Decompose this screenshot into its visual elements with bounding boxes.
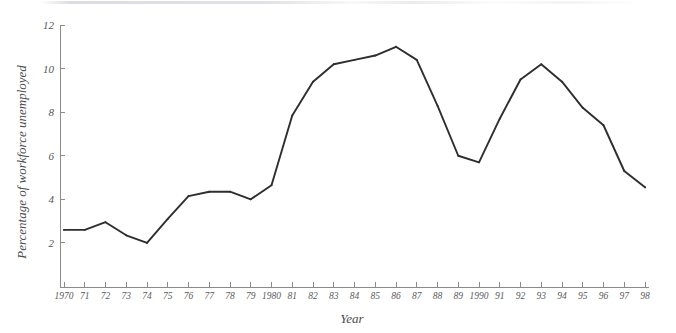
x-axis-tick-label: 89 xyxy=(454,291,464,301)
x-axis-tick-label: 72 xyxy=(101,291,111,301)
data-point xyxy=(540,63,542,65)
data-point xyxy=(354,59,356,61)
x-axis-tick-label: 95 xyxy=(578,291,588,301)
data-point xyxy=(478,161,480,163)
data-point xyxy=(623,170,625,172)
y-axis-tick-label: 6 xyxy=(49,150,55,162)
x-axis-tick-label: 1980 xyxy=(262,291,281,301)
data-point xyxy=(603,124,605,126)
y-axis-tick-label: 12 xyxy=(43,19,55,31)
data-point xyxy=(63,229,65,231)
x-axis-tick-label: 84 xyxy=(350,291,360,301)
x-axis-tick-label: 97 xyxy=(620,291,631,301)
y-axis-tick-label: 10 xyxy=(43,63,55,75)
x-axis-tick-label: 88 xyxy=(433,291,443,301)
data-point xyxy=(374,55,376,57)
x-axis-tick-label: 93 xyxy=(537,291,547,301)
y-axis-tick-label: 8 xyxy=(49,106,55,118)
data-point xyxy=(561,81,563,83)
data-point xyxy=(167,218,169,220)
data-point xyxy=(457,155,459,157)
data-point xyxy=(125,234,127,236)
x-axis-tick-label: 73 xyxy=(122,291,132,301)
data-point xyxy=(395,46,397,48)
unemployment-line-chart: 24681012 1970717273747576777879198081828… xyxy=(0,0,676,333)
x-axis-tick-label: 96 xyxy=(599,291,609,301)
x-axis-tick-label: 71 xyxy=(80,291,90,301)
data-point xyxy=(229,191,231,193)
x-axis-tick-label: 1970 xyxy=(55,291,74,301)
data-point xyxy=(312,81,314,83)
x-axis-tick-label: 87 xyxy=(412,291,423,301)
y-axis-tick-label: 2 xyxy=(49,237,55,249)
data-point xyxy=(416,59,418,61)
x-axis-title: Year xyxy=(340,311,364,326)
x-axis-tick-label: 81 xyxy=(288,291,298,301)
data-point xyxy=(271,184,273,186)
x-axis-tick-label: 86 xyxy=(391,291,401,301)
x-axis-tick-label: 77 xyxy=(205,291,216,301)
x-axis-tick-label: 82 xyxy=(308,291,318,301)
x-axis-tick-label: 76 xyxy=(184,291,194,301)
x-axis-tick-label: 79 xyxy=(246,291,256,301)
data-point xyxy=(291,114,293,116)
data-point xyxy=(84,229,86,231)
y-axis: 24681012 xyxy=(43,19,65,287)
x-axis-tick-label: 91 xyxy=(495,291,505,301)
data-point xyxy=(437,105,439,107)
data-point xyxy=(499,118,501,120)
x-axis-tick-label: 75 xyxy=(163,291,173,301)
x-axis-tick-label: 83 xyxy=(329,291,339,301)
y-axis-title: Percentage of workforce unemployed xyxy=(14,65,29,260)
data-line-unemployment xyxy=(64,47,645,243)
data-point xyxy=(582,107,584,109)
x-axis-tick-label: 78 xyxy=(225,291,235,301)
y-axis-tick-label: 4 xyxy=(49,193,55,205)
data-point xyxy=(188,195,190,197)
x-axis-tick-label: 74 xyxy=(142,291,152,301)
x-axis-tick-label: 94 xyxy=(557,291,567,301)
data-point xyxy=(250,198,252,200)
data-point xyxy=(644,186,646,188)
x-axis-tick-label: 98 xyxy=(640,291,650,301)
x-axis: 1970717273747576777879198081828384858687… xyxy=(55,282,651,301)
data-point xyxy=(146,242,148,244)
data-point xyxy=(520,79,522,81)
data-point xyxy=(208,191,210,193)
data-point xyxy=(333,63,335,65)
x-axis-tick-label: 92 xyxy=(516,291,526,301)
data-point xyxy=(105,221,107,223)
x-axis-tick-label: 1990 xyxy=(470,291,489,301)
figure-canvas: 24681012 1970717273747576777879198081828… xyxy=(0,0,676,333)
data-series-group xyxy=(63,46,646,244)
x-axis-tick-label: 85 xyxy=(371,291,381,301)
